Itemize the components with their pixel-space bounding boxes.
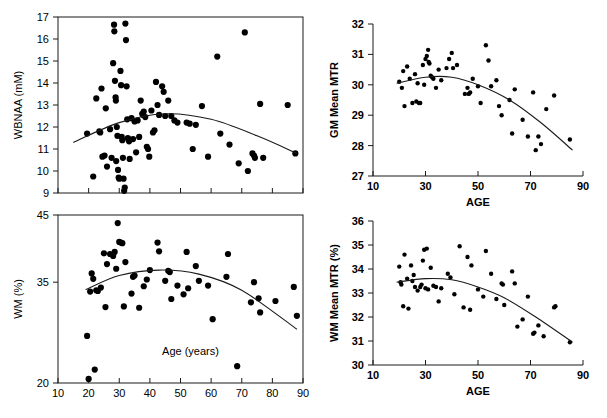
x-tick-label: 50 [174, 387, 186, 399]
data-points [84, 220, 300, 382]
y-tick-label: 30 [352, 359, 364, 371]
data-point [409, 263, 413, 267]
data-point [124, 83, 130, 89]
data-point [101, 153, 107, 159]
data-point [162, 278, 168, 284]
y-axis-label: GM Mean MTR [328, 62, 340, 138]
data-point [471, 77, 475, 81]
data-point [489, 84, 493, 88]
data-point [531, 90, 535, 94]
x-tick-label: 90 [297, 387, 309, 399]
data-point [193, 263, 199, 269]
data-point [205, 154, 211, 160]
data-point [154, 102, 160, 108]
y-tick-label: 35 [352, 239, 364, 251]
plot-frame [58, 215, 303, 383]
data-point [397, 264, 401, 268]
data-point [115, 220, 121, 226]
data-point [457, 244, 461, 248]
data-point [103, 105, 109, 111]
data-point [142, 114, 148, 120]
data-point [501, 282, 505, 286]
panel-wm-mean-mtr-vs-age: 103050709030313233343536WM Mean MTR (%)A… [328, 215, 589, 397]
data-point [294, 313, 300, 319]
data-point [478, 101, 482, 105]
data-point [210, 316, 216, 322]
data-point [138, 98, 144, 104]
data-point [120, 155, 126, 161]
plot-axes [373, 221, 583, 365]
data-point [112, 78, 118, 84]
data-point [520, 118, 524, 122]
data-point [196, 278, 202, 284]
data-point [434, 86, 438, 90]
y-axis-label: WM Mean MTR (%) [328, 244, 340, 342]
panel-wm-percent-vs-age: 102030405060708090203545WM (%)Age (years… [12, 209, 309, 399]
data-point [122, 21, 128, 27]
data-point [447, 57, 451, 61]
y-tick-label: 45 [37, 209, 49, 221]
data-point [199, 103, 205, 109]
data-point [410, 101, 414, 105]
data-point [190, 146, 196, 152]
data-point [110, 60, 116, 66]
data-point [526, 294, 530, 298]
data-point [489, 272, 493, 276]
y-tick-label: 30 [352, 79, 364, 91]
plot-frame [58, 17, 303, 193]
data-point [552, 93, 556, 97]
fit-curve [397, 76, 573, 150]
data-point [174, 282, 180, 288]
data-point [226, 142, 232, 148]
data-point [114, 124, 120, 130]
y-tick-label: 35 [37, 276, 49, 288]
data-point [469, 263, 473, 267]
data-point [425, 54, 429, 58]
data-point [117, 68, 123, 74]
data-point [541, 334, 545, 338]
data-point [136, 134, 142, 140]
data-point [113, 266, 119, 272]
data-point [484, 43, 488, 47]
data-point [455, 63, 459, 67]
data-point [486, 58, 490, 62]
data-point [119, 240, 125, 246]
y-tick-label: 32 [352, 18, 364, 30]
data-point [86, 376, 92, 382]
data-point [112, 249, 118, 255]
x-tick-label: 40 [144, 387, 156, 399]
data-point [101, 250, 107, 256]
x-tick-label: 90 [577, 369, 589, 381]
data-point [452, 292, 456, 296]
data-point [133, 149, 139, 155]
data-point [257, 101, 263, 107]
data-point [510, 269, 514, 273]
data-point [402, 104, 406, 108]
data-points [84, 21, 298, 194]
data-point [159, 83, 165, 89]
fit-curve [397, 278, 573, 342]
data-point [118, 82, 124, 88]
y-axis-label: WM (%) [12, 279, 24, 319]
fit-curve [73, 114, 297, 154]
data-point [130, 136, 136, 142]
x-tick-label: 80 [266, 387, 278, 399]
data-point [400, 86, 404, 90]
y-tick-label: 33 [352, 287, 364, 299]
data-point [121, 303, 127, 309]
data-point [122, 184, 128, 190]
data-point [465, 86, 469, 90]
data-point [255, 295, 261, 301]
data-point [419, 282, 423, 286]
data-point [119, 137, 125, 143]
data-point [252, 155, 258, 161]
y-tick-label: 34 [352, 263, 365, 275]
x-tick-label: 30 [419, 180, 431, 192]
data-point [90, 173, 96, 179]
data-point [532, 330, 536, 334]
data-point [257, 309, 263, 315]
data-point [436, 299, 440, 303]
y-tick-label: 16 [37, 33, 49, 45]
data-point [87, 289, 93, 295]
data-point [421, 258, 425, 262]
